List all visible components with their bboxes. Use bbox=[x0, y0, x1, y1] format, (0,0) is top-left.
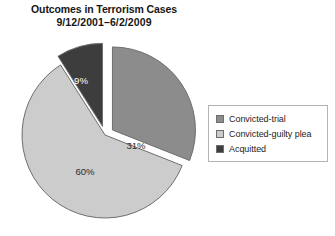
chart-title-line-2: 9/12/2001–6/2/2009 bbox=[6, 16, 202, 29]
pie-chart: 31% 60% 9% bbox=[14, 40, 204, 230]
pie-label-convicted-trial: 31% bbox=[126, 140, 146, 151]
legend-label-acquitted: Acquitted bbox=[229, 144, 266, 154]
pie-chart-svg: 31% 60% 9% bbox=[14, 40, 204, 230]
pie-label-acquitted: 9% bbox=[74, 75, 88, 86]
chart-title-line-1: Outcomes in Terrorism Cases bbox=[6, 3, 202, 16]
legend-item-convicted-guilty-plea[interactable]: Convicted-guilty plea bbox=[216, 126, 321, 141]
chart-title: Outcomes in Terrorism Cases 9/12/2001–6/… bbox=[6, 3, 202, 30]
legend-swatch-acquitted bbox=[216, 145, 224, 153]
chart-canvas: Outcomes in Terrorism Cases 9/12/2001–6/… bbox=[0, 0, 335, 236]
legend-label-convicted-guilty-plea: Convicted-guilty plea bbox=[229, 129, 312, 139]
legend-swatch-convicted-trial bbox=[216, 115, 224, 123]
chart-legend: Convicted-trial Convicted-guilty plea Ac… bbox=[208, 105, 328, 162]
legend-item-convicted-trial[interactable]: Convicted-trial bbox=[216, 111, 321, 126]
pie-label-convicted-guilty-plea: 60% bbox=[75, 166, 95, 177]
legend-swatch-convicted-guilty-plea bbox=[216, 130, 224, 138]
legend-item-acquitted[interactable]: Acquitted bbox=[216, 141, 321, 156]
legend-label-convicted-trial: Convicted-trial bbox=[229, 114, 286, 124]
